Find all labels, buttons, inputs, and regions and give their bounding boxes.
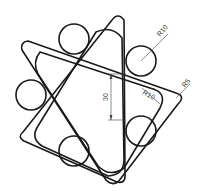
triangle-inner-1 <box>35 30 124 176</box>
circle-left <box>16 80 46 110</box>
leader-r10-circle <box>141 34 168 61</box>
label-r10-fillet: R10 <box>142 89 157 101</box>
circle-top <box>59 24 89 54</box>
label-30: 30 <box>102 93 109 101</box>
label-r5: R5 <box>180 77 191 88</box>
circle-bottom <box>59 136 89 166</box>
circle-lower-right <box>126 116 156 146</box>
triangle-outer-1 <box>20 16 125 182</box>
arrow-down <box>110 115 113 120</box>
cad-drawing: R10 R10 R5 30 <box>0 0 209 191</box>
label-r10-circle: R10 <box>155 23 169 37</box>
